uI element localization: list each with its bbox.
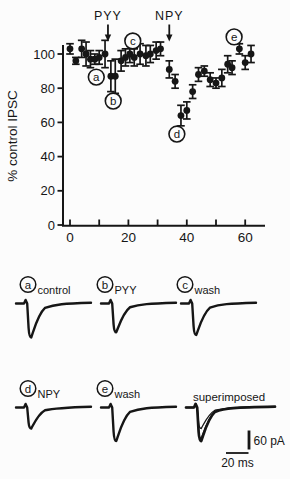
figure-canvas: 0204060801000204060% control IPSCPYYNPYa… bbox=[0, 0, 290, 479]
y-tick-label: 60 bbox=[41, 115, 55, 130]
data-point bbox=[95, 51, 103, 65]
trace-label: wash bbox=[114, 388, 141, 400]
letter-text: e bbox=[102, 383, 108, 395]
trace-panel-b-pyy: bPYY bbox=[97, 277, 176, 333]
ipsc-trace bbox=[16, 300, 91, 338]
marker bbox=[83, 51, 90, 58]
data-point bbox=[195, 68, 203, 82]
paper-figure: 0204060801000204060% control IPSCPYYNPYa… bbox=[0, 0, 290, 479]
y-tick-label: 100 bbox=[33, 47, 55, 62]
marker bbox=[67, 45, 74, 52]
pyy-label: PYY bbox=[94, 9, 122, 23]
data-point bbox=[72, 57, 80, 64]
pyy-application-marker: PYY bbox=[94, 9, 122, 42]
letter-text: b bbox=[110, 95, 116, 107]
y-tick-label: 80 bbox=[41, 81, 55, 96]
data-point bbox=[171, 75, 179, 89]
x-tick-label: 0 bbox=[66, 230, 74, 245]
y-tick-label: 0 bbox=[48, 218, 55, 233]
marker bbox=[147, 51, 154, 58]
y-axis-title: % control IPSC bbox=[5, 90, 20, 182]
letter-text: a bbox=[25, 279, 32, 291]
scale-bars: 60 pA20 ms bbox=[221, 431, 285, 470]
trace-panel-d-npy: dNPY bbox=[16, 381, 91, 429]
marker bbox=[137, 51, 144, 58]
data-point bbox=[189, 85, 197, 99]
y-tick-label: 40 bbox=[41, 149, 55, 164]
horizontal-scale-label: 20 ms bbox=[221, 456, 254, 470]
y-tick-label: 20 bbox=[41, 183, 55, 198]
ipsc-trace bbox=[101, 300, 176, 333]
trace-label: wash bbox=[194, 284, 221, 296]
letter-text: a bbox=[93, 71, 100, 83]
letter-text: b bbox=[102, 279, 108, 291]
letter-text: d bbox=[25, 383, 31, 395]
data-point bbox=[206, 73, 214, 87]
trace-panel-a-control: acontrol bbox=[16, 277, 91, 338]
trace-label: PYY bbox=[115, 284, 138, 296]
letter-text: d bbox=[174, 128, 180, 140]
data-point bbox=[165, 61, 173, 78]
marker bbox=[166, 66, 173, 73]
x-tick-label: 40 bbox=[179, 230, 194, 245]
npy-label: NPY bbox=[155, 9, 184, 23]
marker bbox=[112, 73, 119, 80]
marker bbox=[96, 54, 103, 61]
data-point bbox=[157, 42, 165, 56]
vertical-scale-label: 60 pA bbox=[254, 434, 285, 448]
marker bbox=[218, 75, 225, 82]
marker bbox=[183, 107, 190, 114]
ipsc-trace bbox=[101, 404, 176, 441]
marker bbox=[72, 57, 79, 64]
letter-text: c bbox=[130, 35, 136, 47]
marker bbox=[248, 51, 255, 58]
marker bbox=[229, 64, 236, 71]
x-tick-label: 20 bbox=[121, 230, 136, 245]
trace-label: control bbox=[38, 284, 71, 296]
marker bbox=[131, 54, 138, 61]
ipsc-timecourse-chart: 0204060801000204060% control IPSCPYYNPYa… bbox=[5, 9, 264, 245]
marker bbox=[102, 51, 109, 58]
data-point bbox=[117, 51, 125, 72]
data-point bbox=[236, 44, 244, 54]
data-point bbox=[247, 45, 255, 62]
ipsc-trace bbox=[181, 300, 256, 335]
trace-panel-e-wash: ewash bbox=[97, 381, 176, 441]
superimposed-label: superimposed bbox=[193, 391, 265, 403]
npy-application-marker: NPY bbox=[155, 9, 184, 42]
circled-letter-a: a bbox=[88, 69, 104, 85]
marker bbox=[178, 112, 185, 119]
letter-text: c bbox=[182, 279, 188, 291]
marker bbox=[189, 88, 196, 95]
x-tick-label: 60 bbox=[238, 230, 253, 245]
marker bbox=[213, 80, 220, 87]
data-point bbox=[111, 59, 119, 93]
marker bbox=[236, 45, 243, 52]
marker bbox=[172, 78, 179, 85]
trace-label: NPY bbox=[38, 388, 61, 400]
circled-letter-d: d bbox=[169, 126, 185, 142]
marker bbox=[157, 45, 164, 52]
data-point bbox=[147, 45, 155, 62]
circled-letter-b: b bbox=[105, 93, 121, 109]
circled-letter-c: c bbox=[125, 33, 141, 49]
data-point bbox=[177, 105, 185, 126]
down-arrow-head-icon bbox=[166, 35, 172, 42]
letter-text: e bbox=[231, 31, 237, 43]
ipsc-trace bbox=[16, 404, 91, 429]
data-point bbox=[66, 44, 74, 54]
marker bbox=[78, 45, 85, 52]
trace-panel-c-wash: cwash bbox=[177, 277, 256, 335]
circled-letter-e: e bbox=[226, 29, 242, 45]
data-point bbox=[82, 42, 90, 66]
